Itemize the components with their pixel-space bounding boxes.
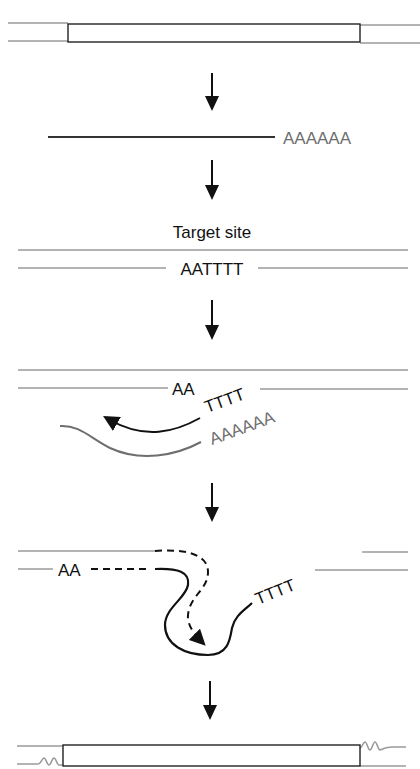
panel-second-strand: AA TTTT — [18, 550, 408, 655]
inserted-retrotransposon-box — [63, 745, 360, 766]
polya-tail-label: AAAAAA — [283, 129, 352, 148]
down-arrow-icon — [205, 160, 219, 200]
down-arrow-icon — [205, 300, 219, 340]
cdna-strand — [155, 569, 252, 655]
tttt-label: TTTT — [202, 385, 248, 417]
panel-target-site: Target site AATTTT — [18, 223, 408, 279]
retrotransposon-box — [68, 24, 360, 42]
down-arrow-icon — [205, 73, 219, 111]
panel-element-in-dna — [8, 23, 420, 43]
panel-transcript: AAAAAA — [48, 129, 352, 148]
tttt-label: TTTT — [252, 576, 298, 609]
aa-label: AA — [58, 561, 81, 580]
panel-inserted-element — [17, 742, 406, 766]
polya-label: AAAAAA — [207, 407, 278, 448]
target-site-sequence: AATTTT — [181, 260, 244, 279]
aa-label: AA — [172, 380, 195, 399]
down-arrow-icon — [205, 483, 219, 522]
rna-template-strand — [60, 426, 201, 456]
duplication-squiggle-left — [17, 758, 63, 765]
reverse-transcription-arrow — [110, 418, 200, 432]
duplication-squiggle-right — [360, 742, 406, 750]
retrotransposition-diagram: AAAAAA Target site AATTTT AA TTTT AAAAAA — [0, 0, 420, 769]
target-site-title: Target site — [173, 223, 251, 242]
down-arrow-icon — [203, 681, 217, 720]
panel-nick-and-prime: AA TTTT AAAAAA — [18, 370, 408, 456]
